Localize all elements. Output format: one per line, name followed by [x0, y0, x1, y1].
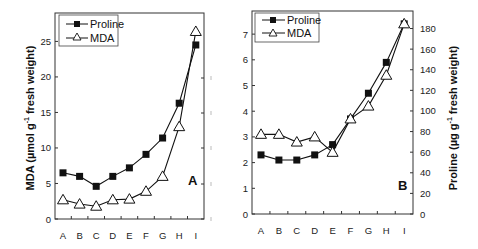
data-point-proline	[76, 173, 83, 180]
data-point-mda	[345, 113, 356, 123]
data-point-proline	[143, 151, 150, 158]
x-tick-label: I	[194, 230, 197, 241]
y-tick-label: 5	[46, 178, 51, 189]
y-tick-label: 25	[40, 36, 51, 47]
x-tick-label: D	[311, 225, 318, 236]
data-point-proline	[60, 169, 67, 176]
y-tick-label: 2	[243, 157, 248, 168]
legend-label-mda: MDA	[287, 27, 312, 39]
y-tick-label: 4	[243, 106, 248, 117]
data-point-mda	[58, 194, 69, 204]
legend-a: Proline MDA	[59, 15, 124, 46]
data-point-proline	[126, 164, 133, 171]
data-point-proline	[159, 135, 166, 142]
data-point-proline	[258, 151, 265, 158]
y-right-tick-label: 180	[420, 23, 436, 34]
legend-label-proline: Proline	[287, 14, 321, 26]
x-axis-ticks-b: ABCDEFGHI	[258, 211, 406, 236]
legend-square-marker-icon	[74, 21, 80, 27]
panel-label-a: A	[188, 173, 198, 188]
x-axis-ticks-a: ABCDEFGHI	[60, 216, 197, 241]
data-point-mda	[327, 147, 338, 157]
data-point-mda	[174, 121, 185, 130]
x-tick-label: C	[293, 225, 300, 236]
y-tick-label: 6	[243, 54, 248, 65]
y-tick-label: 15	[40, 107, 51, 118]
panel-label-b: B	[398, 178, 407, 193]
panel-b: 01234567 020406080100120140160180 ABCDEF…	[243, 11, 459, 236]
legend-square-marker-icon	[270, 17, 276, 23]
x-tick-label: A	[60, 230, 67, 241]
data-point-mda	[363, 101, 374, 111]
data-point-mda	[124, 194, 135, 204]
y-right-tick-label: 100	[420, 105, 436, 116]
data-point-mda	[399, 18, 410, 28]
data-point-proline	[93, 183, 100, 190]
data-point-proline	[383, 59, 390, 66]
data-point-mda	[157, 171, 168, 181]
x-tick-label: H	[383, 225, 390, 236]
legend-label-proline: Proline	[90, 18, 124, 30]
data-point-mda	[381, 70, 392, 80]
y-right-tick-label: 160	[420, 44, 436, 55]
chart-figure: 0510152025 ABCDEFGHI Proline MDA A MDA (…	[0, 0, 478, 249]
data-point-mda	[107, 194, 118, 204]
legend-b: Proline MDA	[255, 13, 321, 42]
panel-a: 0510152025 ABCDEFGHI Proline MDA A MDA (…	[23, 13, 211, 241]
y-right-tick-label: 60	[420, 147, 431, 158]
y-axis-left-ticks-b: 01234567	[243, 29, 255, 220]
x-tick-label: B	[276, 225, 282, 236]
data-point-proline	[311, 151, 318, 158]
y-tick-label: 3	[243, 131, 248, 142]
x-tick-label: G	[159, 230, 166, 241]
data-point-proline	[293, 157, 300, 164]
y-right-tick-label: 20	[420, 188, 431, 199]
x-tick-label: C	[93, 230, 100, 241]
faint-right-ticks-a	[201, 76, 211, 221]
data-point-mda	[309, 131, 320, 141]
y-tick-label: 0	[46, 214, 51, 225]
data-point-proline	[365, 90, 372, 97]
y-tick-label: 5	[243, 80, 248, 91]
x-tick-label: G	[365, 225, 372, 236]
x-tick-label: A	[258, 225, 265, 236]
x-tick-label: F	[348, 225, 354, 236]
data-point-proline	[176, 100, 183, 107]
y-axis-right-ticks-b: 020406080100120140160180	[410, 23, 436, 219]
x-tick-label: H	[176, 230, 183, 241]
y-tick-label: 0	[243, 209, 248, 220]
x-tick-label: F	[143, 230, 149, 241]
data-point-proline	[109, 173, 116, 180]
x-tick-label: D	[109, 230, 116, 241]
y-tick-label: 10	[40, 142, 51, 153]
y-axis-title-b: Proline (µg g-1 fresh weight)	[446, 45, 459, 190]
data-point-proline	[192, 41, 199, 48]
data-point-mda	[256, 129, 267, 139]
series-a	[58, 26, 202, 210]
x-tick-label: E	[126, 230, 132, 241]
y-right-tick-label: 120	[420, 85, 436, 96]
y-right-tick-label: 40	[420, 167, 431, 178]
y-right-tick-label: 0	[420, 209, 425, 220]
data-point-mda	[190, 26, 201, 35]
data-point-mda	[273, 129, 284, 139]
legend-label-mda: MDA	[90, 32, 115, 44]
x-tick-label: I	[403, 225, 406, 236]
x-tick-label: E	[329, 225, 335, 236]
data-point-proline	[275, 157, 282, 164]
y-tick-label: 20	[40, 71, 51, 82]
y-tick-label: 1	[243, 183, 248, 194]
y-right-tick-label: 140	[420, 64, 436, 75]
y-tick-label: 7	[243, 29, 248, 40]
y-axis-title-a: MDA (µmol g-1 fresh weight)	[23, 45, 36, 190]
y-right-tick-label: 80	[420, 126, 431, 137]
x-tick-label: B	[76, 230, 82, 241]
